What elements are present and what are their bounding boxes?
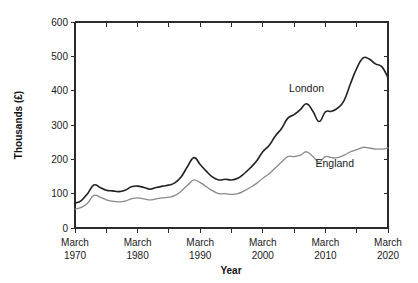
y-tick-label: 400 (51, 85, 68, 96)
x-tick-label-year: 1980 (126, 250, 149, 261)
x-tick-label-year: 2020 (377, 250, 400, 261)
chart-page: 0100200300400500600 March1970March1980Ma… (0, 0, 418, 283)
series-label-london: London (289, 82, 324, 94)
axis-group (75, 22, 388, 228)
axis-frame-top-right (75, 22, 388, 228)
series-group (75, 57, 388, 209)
x-tick-label-year: 1970 (64, 250, 87, 261)
y-tick-label: 100 (51, 188, 68, 199)
x-tick-group: March1970March1980March1990March2000Marc… (61, 22, 402, 261)
y-tick-label: 200 (51, 154, 68, 165)
x-tick-label-month: March (312, 237, 340, 248)
y-axis-title: Thousands (£) (13, 91, 24, 159)
x-tick-label-month: March (124, 237, 152, 248)
y-tick-group: 0100200300400500600 (51, 17, 388, 234)
series-label-england: England (316, 157, 355, 169)
x-tick-label-month: March (61, 237, 89, 248)
series-line-london (75, 57, 388, 203)
x-tick-label-month: March (249, 237, 277, 248)
x-tick-label-year: 2010 (314, 250, 337, 261)
x-axis-title: Year (220, 265, 241, 276)
x-tick-label-month: March (186, 237, 214, 248)
axis-spines (75, 22, 388, 228)
y-tick-label: 500 (51, 51, 68, 62)
house-price-line-chart: 0100200300400500600 March1970March1980Ma… (0, 0, 418, 283)
x-tick-label-year: 2000 (252, 250, 275, 261)
y-tick-label: 600 (51, 17, 68, 28)
y-tick-label: 300 (51, 120, 68, 131)
x-tick-label-month: March (374, 237, 402, 248)
y-tick-label: 0 (62, 223, 68, 234)
x-tick-label-year: 1990 (189, 250, 212, 261)
